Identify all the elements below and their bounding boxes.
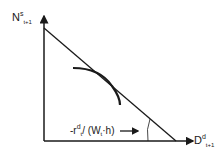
angle-arc <box>147 119 150 141</box>
x-axis-label: Ddt+1 <box>194 133 214 148</box>
indifference-curve <box>73 68 120 105</box>
slope-label: -rdt/ (Wt·h) <box>70 123 114 137</box>
y-axis-label: Nst+1 <box>12 10 32 25</box>
